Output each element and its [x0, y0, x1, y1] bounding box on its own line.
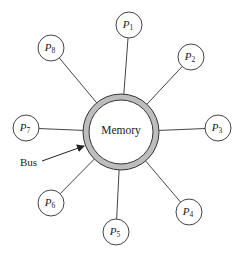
edge-p4-memory: [146, 161, 181, 202]
processor-node-p2: P2: [178, 44, 204, 70]
memory-node: Memory: [83, 94, 159, 170]
memory-bus-diagram: Memory Bus P1P2P3P4P5P6P7P8: [0, 0, 248, 256]
edge-p6-memory: [60, 159, 94, 194]
memory-label: Memory: [101, 124, 141, 137]
edge-p3-memory: [159, 129, 205, 131]
processor-node-p1: P1: [116, 12, 142, 38]
processor-node-p3: P3: [205, 115, 231, 141]
processor-node-p6: P6: [38, 190, 64, 216]
processor-node-p4: P4: [176, 199, 202, 225]
processor-node-p5: P5: [103, 219, 129, 245]
bus-annotation: Bus: [20, 146, 84, 168]
processor-node-p8: P8: [38, 35, 64, 61]
processor-node-p7: P7: [13, 115, 39, 141]
edge-p8-memory: [59, 58, 96, 103]
edge-p2-memory: [147, 67, 182, 105]
edge-p5-memory: [117, 170, 119, 219]
edge-p7-memory: [39, 129, 83, 131]
edge-p1-memory: [124, 38, 128, 94]
bus-arrow: [42, 146, 84, 161]
bus-label: Bus: [20, 156, 37, 168]
